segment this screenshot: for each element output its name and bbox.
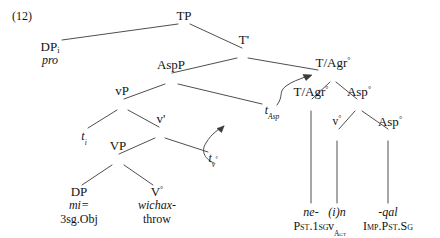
branch-tp-dp bbox=[62, 24, 178, 40]
object-gloss: 3sg.Obj bbox=[60, 212, 98, 226]
dp-subject-gloss: pro bbox=[41, 53, 60, 67]
branch-tbar-tagr bbox=[248, 58, 318, 70]
branch-vp-vbar bbox=[128, 110, 159, 127]
branch-vpbig-v bbox=[124, 165, 153, 185]
node-dp-subject: DPi pro bbox=[41, 40, 60, 67]
node-t-bar: T' bbox=[239, 33, 249, 46]
movement-arrow-v-to-asp-head bbox=[217, 126, 224, 133]
trace-subject: ti bbox=[81, 129, 86, 145]
trace-v: tv° bbox=[208, 151, 217, 167]
leaf-aspect: -qal Imp.Pst.Sg bbox=[363, 205, 413, 234]
little-v-gloss: vAgt bbox=[328, 219, 346, 235]
node-asp-inner: Asp° bbox=[378, 115, 402, 128]
branch-tp-tbar bbox=[190, 24, 242, 48]
aspect-gloss: Imp.Pst.Sg bbox=[363, 219, 413, 233]
node-asp-outer: Asp° bbox=[347, 85, 371, 98]
node-vp-big: VP bbox=[110, 139, 127, 152]
syntax-tree-figure: (12) bbox=[0, 0, 440, 238]
node-aspp: AspP bbox=[157, 58, 185, 71]
node-tagr-inner: T/Agr° bbox=[294, 85, 329, 98]
node-dp-object: DP mi= 3sg.Obj bbox=[60, 185, 98, 227]
branch-vp-ti bbox=[88, 110, 117, 128]
branch-vpbig-dp bbox=[82, 165, 112, 185]
little-v-form: (i)n bbox=[328, 205, 346, 219]
branch-vbar-tv bbox=[165, 138, 208, 152]
verb-gloss: throw bbox=[138, 212, 176, 226]
node-v-little: v° bbox=[333, 116, 342, 128]
node-v-head: V° wichax- throw bbox=[138, 185, 176, 227]
aspect-form: -qal bbox=[363, 205, 413, 219]
branch-aspp-tasp bbox=[178, 84, 262, 104]
movement-arrow-asp-to-tagr-head bbox=[303, 75, 312, 81]
object-form: mi= bbox=[60, 198, 98, 212]
trace-asp: tAsp bbox=[265, 103, 280, 119]
tense-form: ne- bbox=[293, 205, 328, 219]
node-vp-small: vP bbox=[115, 84, 129, 97]
tense-gloss: Pst.1sg bbox=[293, 219, 328, 233]
branch-aspp-vp bbox=[124, 84, 165, 99]
node-tagr-top: T/Agr° bbox=[316, 56, 351, 69]
node-tp: TP bbox=[176, 9, 191, 22]
node-v-bar: v' bbox=[157, 112, 166, 125]
verb-form: wichax- bbox=[138, 198, 176, 212]
leaf-little-v: (i)n vAgt bbox=[328, 205, 346, 236]
leaf-tense: ne- Pst.1sg bbox=[293, 205, 328, 234]
